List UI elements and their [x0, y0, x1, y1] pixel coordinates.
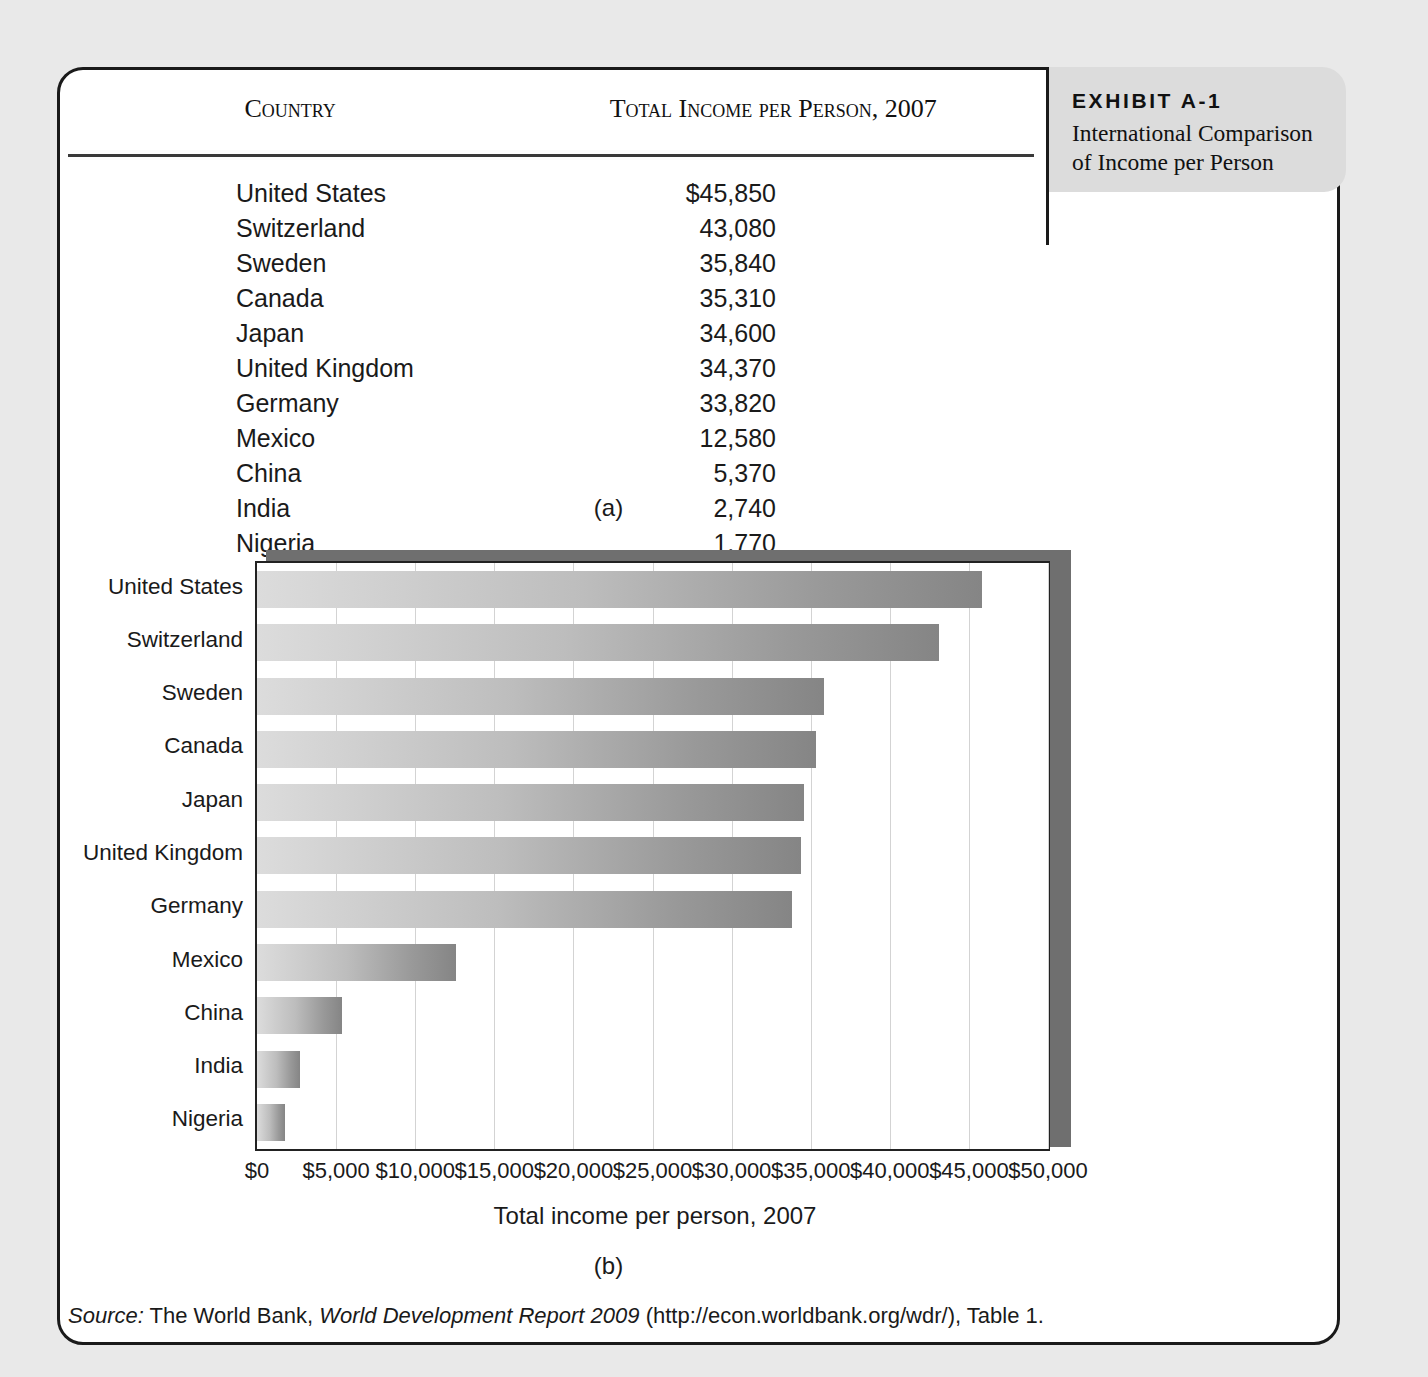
y-axis-label: Nigeria: [3, 1106, 243, 1132]
table-header-row: Country Total Income per Person, 2007: [68, 94, 1034, 156]
cell-country: Sweden: [68, 246, 512, 281]
bar-row: [257, 883, 1048, 936]
x-axis-tick-label: $30,000: [692, 1158, 772, 1184]
table-row: China5,370: [68, 456, 1034, 491]
part-a-label: (a): [0, 494, 1247, 522]
cell-income: 35,310: [512, 281, 1034, 316]
x-axis-tick-label: $45,000: [929, 1158, 1009, 1184]
income-table: Country Total Income per Person, 2007 Un…: [68, 94, 1034, 561]
bar-row: [257, 723, 1048, 776]
table-row: Sweden35,840: [68, 246, 1034, 281]
table-row: Mexico12,580: [68, 421, 1034, 456]
part-b-label: (b): [0, 1252, 1247, 1280]
bar: [257, 624, 939, 661]
exhibit-card: EXHIBIT A-1 International Comparison of …: [57, 67, 1340, 1345]
cell-income: 5,370: [512, 456, 1034, 491]
x-axis-tick-label: $0: [245, 1158, 269, 1184]
y-axis-label: China: [3, 1000, 243, 1026]
plot-area: [255, 561, 1050, 1151]
y-axis-label: Germany: [3, 893, 243, 919]
bar: [257, 784, 804, 821]
cell-income: 43,080: [512, 211, 1034, 246]
y-axis-label: Canada: [3, 733, 243, 759]
x-axis-tick-label: $40,000: [850, 1158, 930, 1184]
income-bar-chart: United StatesSwitzerlandSwedenCanadaJapa…: [60, 550, 1343, 1250]
source-publisher: The World Bank,: [150, 1303, 313, 1328]
table-row: United States$45,850: [68, 156, 1034, 211]
income-table-container: Country Total Income per Person, 2007 Un…: [68, 94, 1034, 561]
source-note: Source: The World Bank, World Developmen…: [68, 1303, 1044, 1329]
cell-country: United States: [68, 156, 512, 211]
x-axis-tick-label: $25,000: [613, 1158, 693, 1184]
bar: [257, 837, 801, 874]
y-axis-label: Switzerland: [3, 627, 243, 653]
exhibit-title: International Comparison of Income per P…: [1072, 119, 1322, 177]
cell-income: 12,580: [512, 421, 1034, 456]
x-axis-title: Total income per person, 2007: [60, 1202, 1250, 1230]
cell-income: $45,850: [512, 156, 1034, 211]
bar-row: [257, 1096, 1048, 1149]
bar-row: [257, 616, 1048, 669]
bar: [257, 731, 816, 768]
bar-row: [257, 563, 1048, 616]
y-axis-label: India: [3, 1053, 243, 1079]
table-row: Japan34,600: [68, 316, 1034, 351]
source-report: World Development Report 2009: [319, 1303, 639, 1328]
cell-income: 34,370: [512, 351, 1034, 386]
bar-row: [257, 829, 1048, 882]
bar: [257, 1051, 300, 1088]
table-row: United Kingdom34,370: [68, 351, 1034, 386]
x-axis-tick-label: $5,000: [302, 1158, 369, 1184]
source-prefix: Source:: [68, 1303, 144, 1328]
cell-country: China: [68, 456, 512, 491]
bar: [257, 997, 342, 1034]
cell-income: 35,840: [512, 246, 1034, 281]
x-axis-tick-label: $50,000: [1008, 1158, 1088, 1184]
column-header-income: Total Income per Person, 2007: [512, 94, 1034, 156]
bar-row: [257, 936, 1048, 989]
exhibit-number: EXHIBIT A-1: [1072, 89, 1346, 113]
y-axis-label: Japan: [3, 787, 243, 813]
bar: [257, 571, 982, 608]
table-row: Canada35,310: [68, 281, 1034, 316]
bar: [257, 891, 792, 928]
x-axis-ticks: $0$5,000$10,000$15,000$20,000$25,000$30,…: [60, 1158, 1343, 1188]
x-axis-tick-label: $20,000: [534, 1158, 614, 1184]
x-axis-tick-label: $15,000: [455, 1158, 535, 1184]
y-axis-label: United States: [3, 574, 243, 600]
bar: [257, 944, 456, 981]
gridline: [1048, 563, 1049, 1149]
cell-country: Switzerland: [68, 211, 512, 246]
y-axis-label: Sweden: [3, 680, 243, 706]
exhibit-callout: EXHIBIT A-1 International Comparison of …: [1049, 67, 1346, 192]
cell-country: United Kingdom: [68, 351, 512, 386]
source-suffix: (http://econ.worldbank.org/wdr/), Table …: [646, 1303, 1044, 1328]
column-header-country: Country: [68, 94, 512, 156]
bar-row: [257, 776, 1048, 829]
bar: [257, 1104, 285, 1141]
cell-country: Japan: [68, 316, 512, 351]
x-axis-tick-label: $10,000: [375, 1158, 455, 1184]
y-axis-label: Mexico: [3, 947, 243, 973]
cell-country: Mexico: [68, 421, 512, 456]
cell-income: 34,600: [512, 316, 1034, 351]
cell-country: Canada: [68, 281, 512, 316]
bar-row: [257, 1042, 1048, 1095]
bar-row: [257, 989, 1048, 1042]
bar: [257, 678, 824, 715]
y-axis-label: United Kingdom: [3, 840, 243, 866]
table-row: Germany33,820: [68, 386, 1034, 421]
bar-row: [257, 670, 1048, 723]
table-header: Country Total Income per Person, 2007: [68, 94, 1034, 156]
table-row: Switzerland43,080: [68, 211, 1034, 246]
cell-income: 33,820: [512, 386, 1034, 421]
x-axis-tick-label: $35,000: [771, 1158, 851, 1184]
cell-country: Germany: [68, 386, 512, 421]
